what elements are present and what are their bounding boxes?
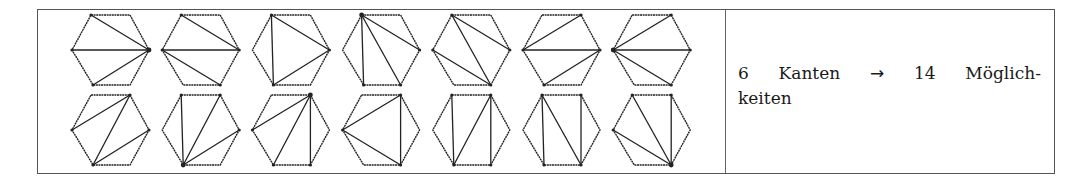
hexagon-triangulation xyxy=(521,13,601,86)
vertex-dot xyxy=(669,163,674,168)
vertex-dot xyxy=(180,93,183,96)
diagonal xyxy=(454,95,491,165)
option-count: 14 xyxy=(914,61,936,86)
caption-cell: 6 Kanten → 14 Möglich- keiten xyxy=(738,61,1041,111)
diagonal xyxy=(181,15,239,50)
vertex-dot xyxy=(128,93,131,96)
vertex-dot xyxy=(238,48,241,51)
vertex-dot xyxy=(542,163,545,166)
diagonal xyxy=(523,15,581,50)
diagonal xyxy=(542,95,544,165)
vertex-dot xyxy=(328,48,331,51)
vertex-dot xyxy=(180,13,183,16)
vertex-dot xyxy=(70,128,73,131)
diagonal xyxy=(362,15,420,50)
diagonal xyxy=(452,15,510,50)
vertex-dot xyxy=(579,13,582,16)
column-divider xyxy=(725,10,726,173)
vertex-dot xyxy=(399,83,402,86)
diagonal xyxy=(452,95,454,165)
right-arrow-icon: → xyxy=(870,61,884,86)
vertex-dot xyxy=(611,48,616,53)
hexagon-triangulation xyxy=(433,93,510,166)
diagonal xyxy=(362,15,401,85)
vertex-dot xyxy=(181,163,186,168)
vertex-dot xyxy=(251,128,254,131)
hexagon-outline xyxy=(433,95,510,165)
hexagon-triangulation xyxy=(523,93,600,166)
vertex-dot xyxy=(418,48,421,51)
vertex-dot xyxy=(309,163,312,166)
diagonal xyxy=(183,130,239,165)
hexagon-triangulation xyxy=(252,13,331,86)
hexagon-triangulation xyxy=(343,13,422,87)
diagonal xyxy=(162,50,220,85)
vertex-dot xyxy=(450,13,453,16)
vertex-dot xyxy=(540,93,543,96)
vertex-dot xyxy=(272,83,275,86)
diagonal xyxy=(91,15,149,50)
hexagon-triangulations-figure xyxy=(38,10,725,173)
option-label-part1: Möglich- xyxy=(965,61,1041,86)
vertex-dot xyxy=(147,48,152,53)
vertex-dot xyxy=(89,13,92,16)
vertex-dot xyxy=(670,13,673,16)
hexagon-grid xyxy=(38,10,725,173)
vertex-dot xyxy=(670,93,673,96)
hexagon-triangulation xyxy=(251,93,330,167)
figure-table: 6 Kanten → 14 Möglich- keiten xyxy=(37,9,1055,174)
vertex-dot xyxy=(272,163,275,166)
vertex-dot xyxy=(70,48,73,51)
vertex-dot xyxy=(308,93,313,98)
hexagon-triangulation xyxy=(70,13,151,86)
hexagon-triangulation xyxy=(162,93,241,167)
vertex-dot xyxy=(450,93,453,96)
vertex-dot xyxy=(270,13,273,16)
edge-count: 6 xyxy=(738,61,749,86)
hexagon-triangulation xyxy=(431,13,511,86)
vertex-dot xyxy=(579,93,582,96)
diagonal xyxy=(273,50,329,85)
diagonal xyxy=(544,50,600,85)
diagonal xyxy=(362,15,364,85)
vertex-dot xyxy=(542,83,545,86)
vertex-dot xyxy=(399,163,402,166)
vertex-dot xyxy=(91,83,94,86)
vertex-dot xyxy=(359,13,364,18)
diagonal xyxy=(93,50,149,85)
vertex-dot xyxy=(161,48,164,51)
hexagon-outline xyxy=(252,95,329,165)
vertex-dot xyxy=(362,83,365,86)
hexagon-triangulation xyxy=(612,93,691,167)
hexagon-triangulation xyxy=(161,13,241,86)
vertex-dot xyxy=(579,163,582,166)
diagonal xyxy=(632,95,671,165)
hexagon-triangulation xyxy=(611,13,692,86)
vertex-dot xyxy=(689,48,692,51)
vertex-dot xyxy=(91,163,94,166)
vertex-dot xyxy=(508,48,511,51)
vertex-dot xyxy=(238,128,241,131)
vertex-dot xyxy=(631,93,634,96)
vertex-dot xyxy=(598,48,601,51)
diagonal xyxy=(271,15,273,85)
diagonal xyxy=(613,50,671,85)
hexagon-triangulation xyxy=(341,93,420,166)
diagonal xyxy=(93,130,149,165)
vertex-dot xyxy=(521,48,524,51)
vertex-dot xyxy=(219,83,222,86)
vertex-dot xyxy=(431,48,434,51)
vertex-dot xyxy=(612,128,615,131)
vertex-dot xyxy=(452,163,455,166)
caption-line-1: 6 Kanten → 14 Möglich- xyxy=(738,61,1041,86)
diagonal xyxy=(271,15,329,50)
diagonal xyxy=(433,50,491,85)
vertex-dot xyxy=(399,93,402,96)
option-label-part2: keiten xyxy=(738,88,792,108)
vertex-dot xyxy=(489,93,492,96)
diagonal xyxy=(613,130,671,165)
diagonal xyxy=(452,15,491,85)
caption-line-2: keiten xyxy=(738,86,1041,111)
diagonal xyxy=(613,15,671,50)
diagonal xyxy=(343,95,401,130)
